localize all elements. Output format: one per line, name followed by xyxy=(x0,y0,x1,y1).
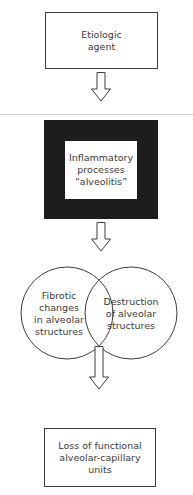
arrow-down-icon xyxy=(88,346,110,390)
loss-line-1: Loss of functional xyxy=(58,440,141,452)
destruction-label: Destruction of alveolar structures xyxy=(100,296,162,332)
loss-of-units-label: Loss of functional alveolar-capillary un… xyxy=(58,440,141,476)
fibrotic-line-3: in alveolar xyxy=(26,314,92,326)
fibrotic-line-1: Fibrotic xyxy=(26,290,92,302)
destruction-line-3: structures xyxy=(100,320,162,332)
destruction-line-1: Destruction xyxy=(100,296,162,308)
fibrotic-changes-label: Fibrotic changes in alveolar structures xyxy=(26,290,92,338)
fibrotic-line-4: structures xyxy=(26,326,92,338)
loss-line-2: alveolar-capillary xyxy=(58,452,141,464)
loss-line-3: units xyxy=(58,464,141,476)
destruction-line-2: of alveolar xyxy=(100,308,162,320)
venn-circles xyxy=(0,0,193,495)
fibrotic-line-2: changes xyxy=(26,302,92,314)
loss-of-units-box: Loss of functional alveolar-capillary un… xyxy=(44,428,156,487)
